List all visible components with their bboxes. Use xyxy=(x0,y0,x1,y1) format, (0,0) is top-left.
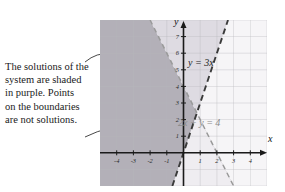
caption-line: are not solutions. xyxy=(5,113,101,126)
tick-label: 1 xyxy=(199,157,202,164)
equation-label-2x-plus-y-equals-4: 2x + y = 4 xyxy=(178,117,220,128)
tick-label: -1 xyxy=(164,157,169,164)
x-axis-label: x xyxy=(268,133,272,144)
figure-caption: The solutions of the system are shaded i… xyxy=(5,60,101,126)
coordinate-plane: -4-3-2-112341234567 y x y = 3x 2x + y = … xyxy=(100,20,267,186)
tick-label: 1 xyxy=(176,132,179,139)
equation-label-y-equals-3x: y = 3x xyxy=(188,57,214,68)
caption-line: system are shaded xyxy=(5,73,101,86)
figure-system-of-inequalities: The solutions of the system are shaded i… xyxy=(0,0,285,192)
tick-label: 5 xyxy=(176,66,179,73)
tick-label: 3 xyxy=(231,157,235,164)
graph-svg: -4-3-2-112341234567 xyxy=(100,20,267,186)
tick-label: 3 xyxy=(175,99,179,106)
tick-label: -3 xyxy=(131,157,136,164)
caption-line: on the boundaries xyxy=(5,100,101,113)
tick-label: -4 xyxy=(114,157,120,164)
caption-line: in purple. Points xyxy=(5,86,101,99)
caption-line: The solutions of the xyxy=(5,60,101,73)
tick-label: -2 xyxy=(147,157,153,164)
y-axis-label: y xyxy=(174,16,178,27)
